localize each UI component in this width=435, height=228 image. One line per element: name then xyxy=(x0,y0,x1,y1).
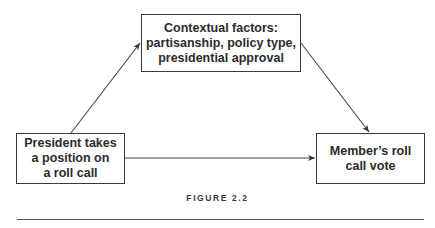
node-contextual-factors: Contextual factors: partisanship, policy… xyxy=(141,14,301,72)
node-label: President takes a position on a roll cal… xyxy=(24,136,116,181)
node-president-position: President takes a position on a roll cal… xyxy=(16,133,125,184)
caption-rule xyxy=(17,219,424,220)
node-label: Contextual factors: partisanship, policy… xyxy=(146,21,296,66)
figure-caption: FIGURE 2.2 xyxy=(0,193,435,203)
node-member-vote: Member’s roll call vote xyxy=(316,133,425,184)
node-label: Member’s roll call vote xyxy=(330,144,411,174)
edge-president-to-context xyxy=(71,43,140,133)
edge-context-to-vote xyxy=(301,43,369,132)
